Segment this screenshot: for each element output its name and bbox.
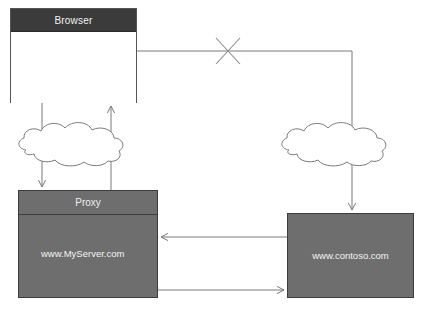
left-cloud-icon <box>19 123 123 166</box>
browser-title: Browser <box>54 15 92 26</box>
browser-titlebar: Browser <box>11 9 136 32</box>
proxy-titlebar: Proxy <box>19 191 157 215</box>
proxy-title: Proxy <box>75 197 101 208</box>
browser-window[interactable]: Browser <box>10 8 137 103</box>
contoso-site-label: www.contoso.com <box>312 250 389 261</box>
proxy-site-label: www.MyServer.com <box>41 248 124 259</box>
right-cloud-icon <box>282 123 386 166</box>
contoso-server-node[interactable]: www.contoso.com <box>287 213 414 298</box>
browser-viewport[interactable] <box>11 32 136 103</box>
proxy-body: www.MyServer.com <box>19 215 157 297</box>
proxy-server-node[interactable]: Proxy www.MyServer.com <box>18 190 158 298</box>
